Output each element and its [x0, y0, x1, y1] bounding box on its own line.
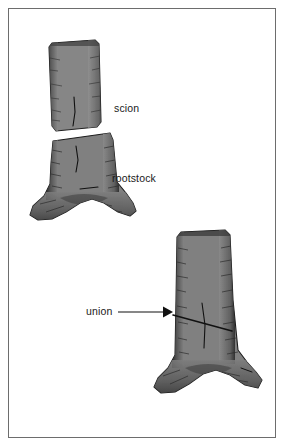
union-arrow [118, 307, 173, 318]
graft-diagram-canvas [0, 0, 286, 448]
scion-trunk-illustration [47, 38, 103, 134]
scion-shading [47, 38, 103, 134]
figure-root: scion rootstock union [0, 0, 286, 448]
label-rootstock: rootstock [112, 173, 156, 184]
label-scion: scion [114, 103, 139, 114]
arrow-right-icon [163, 307, 173, 318]
label-union: union [86, 306, 112, 317]
